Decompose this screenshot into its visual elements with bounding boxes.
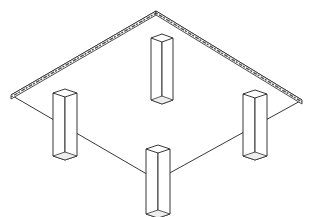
column-left-face bbox=[151, 38, 162, 104]
column-left-face bbox=[53, 93, 65, 160]
column-right-face bbox=[158, 149, 170, 217]
column-front bbox=[146, 145, 170, 217]
column-right-face bbox=[162, 38, 173, 104]
column-right-face bbox=[65, 93, 77, 160]
column-left bbox=[53, 89, 77, 160]
column-left-face bbox=[146, 149, 158, 217]
column-back bbox=[151, 34, 173, 104]
column-left-face bbox=[243, 94, 255, 160]
column-right-face bbox=[255, 94, 267, 160]
column-right bbox=[243, 90, 267, 160]
isometric-drawing bbox=[0, 0, 312, 217]
slab-column-diagram bbox=[0, 0, 312, 217]
